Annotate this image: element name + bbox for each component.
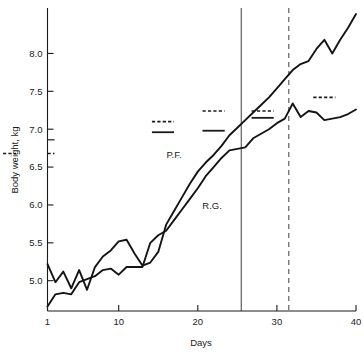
y-tick-label-6.5: 6.5 [29, 161, 42, 172]
x-axis-title: Days [190, 337, 212, 348]
plot-background [0, 0, 364, 355]
body-weight-line-chart: 5.05.56.06.57.07.58.0 110203040 Body wei… [0, 0, 364, 355]
x-tick-label-20: 20 [193, 316, 204, 327]
x-tick-label-40: 40 [351, 316, 362, 327]
x-tick-label-30: 30 [272, 316, 283, 327]
y-tick-label-7.5: 7.5 [29, 86, 42, 97]
y-tick-label-5.0: 5.0 [29, 275, 42, 286]
y-tick-label-7.0: 7.0 [29, 124, 42, 135]
series-label-rg: R.G. [202, 200, 222, 211]
y-axis-title: Body weight, kg [9, 126, 20, 193]
y-tick-label-8.0: 8.0 [29, 48, 42, 59]
y-tick-label-6.0: 6.0 [29, 199, 42, 210]
x-tick-label-1: 1 [45, 316, 50, 327]
series-label-pf: P.F. [166, 149, 181, 160]
x-tick-label-10: 10 [113, 316, 124, 327]
chart-figure: 5.05.56.06.57.07.58.0 110203040 Body wei… [0, 0, 364, 355]
y-tick-label-5.5: 5.5 [29, 237, 42, 248]
